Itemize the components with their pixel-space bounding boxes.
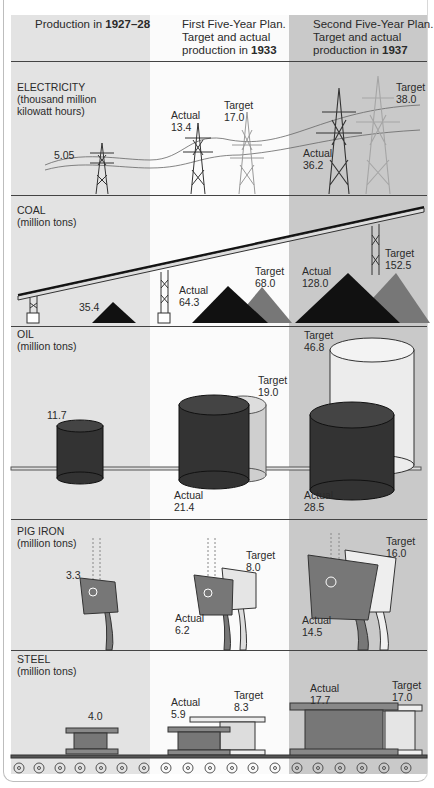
section-title-coal: COAL (million tons) [17, 204, 77, 228]
value-steel-1933-target: Target8.3 [234, 690, 263, 713]
value-oil-1928: 11.7 [47, 410, 67, 422]
value-coal-1933-actual: Actual64.3 [179, 285, 208, 308]
oil-tank-icon [57, 338, 414, 500]
value-electricity-1933-actual: Actual13.4 [171, 110, 200, 133]
section-title-oil: OIL (million tons) [17, 328, 77, 352]
power-tower-icon [90, 143, 114, 194]
power-tower-icon [316, 88, 362, 194]
value-electricity-1937-actual: Actual36.2 [303, 148, 332, 171]
value-pig-iron-1933-target: Target8.0 [246, 550, 275, 573]
value-steel-1928: 4.0 [88, 711, 103, 723]
section-title-pig-iron: PIG IRON (million tons) [17, 525, 77, 549]
value-coal-1928: 35.4 [79, 302, 99, 314]
value-electricity-1937-target: Target38.0 [396, 82, 425, 105]
value-oil-1937-actual: Actual28.5 [304, 490, 333, 513]
section-title-electricity: ELECTRICITY (thousand million kilowatt h… [17, 81, 96, 117]
value-coal-1937-target: Target152.5 [385, 248, 414, 271]
coal-conveyor [18, 207, 424, 300]
value-coal-1937-actual: Actual128.0 [302, 266, 331, 289]
value-pig-iron-1928: 3.3 [66, 570, 81, 582]
roller-conveyor [11, 755, 427, 758]
value-steel-1937-actual: Actual17.7 [310, 683, 339, 706]
value-steel-1933-actual: Actual5.9 [171, 697, 200, 720]
roller-icon [14, 763, 411, 773]
value-oil-1933-actual: Actual21.4 [174, 490, 203, 513]
value-oil-1933-target: Target19.0 [258, 375, 287, 398]
value-oil-1937-target: Target46.8 [304, 330, 333, 353]
value-electricity-1933-target: Target17.0 [224, 100, 253, 123]
value-steel-1937-target: Target17.0 [392, 680, 421, 703]
value-coal-1933-target: Target68.0 [255, 266, 284, 289]
value-pig-iron-1933-actual: Actual6.2 [175, 613, 204, 636]
value-pig-iron-1937-actual: Actual14.5 [302, 615, 331, 638]
value-electricity-1928: 5.05 [54, 150, 74, 162]
section-title-steel: STEEL (million tons) [17, 653, 77, 677]
ladle-icon [80, 533, 396, 650]
value-pig-iron-1937-target: Target16.0 [386, 536, 415, 559]
